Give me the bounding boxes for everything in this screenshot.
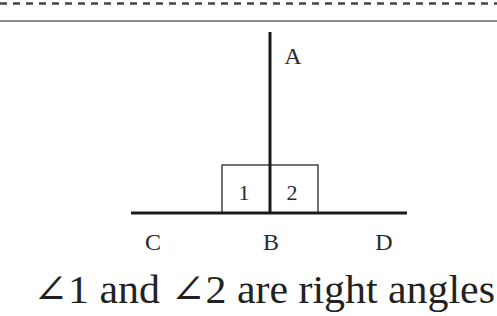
angle-1-label: 1 <box>239 180 250 205</box>
point-D-label: D <box>375 229 392 255</box>
angle-2-label: 2 <box>287 180 298 205</box>
point-B-label: B <box>263 229 279 255</box>
point-A-label: A <box>284 43 302 69</box>
perpendicular-lines-diagram: 1 2 A C B D ∠1 and ∠2 are right angles <box>0 0 497 316</box>
point-C-label: C <box>145 229 161 255</box>
caption-text: ∠1 and ∠2 are right angles <box>33 267 495 312</box>
